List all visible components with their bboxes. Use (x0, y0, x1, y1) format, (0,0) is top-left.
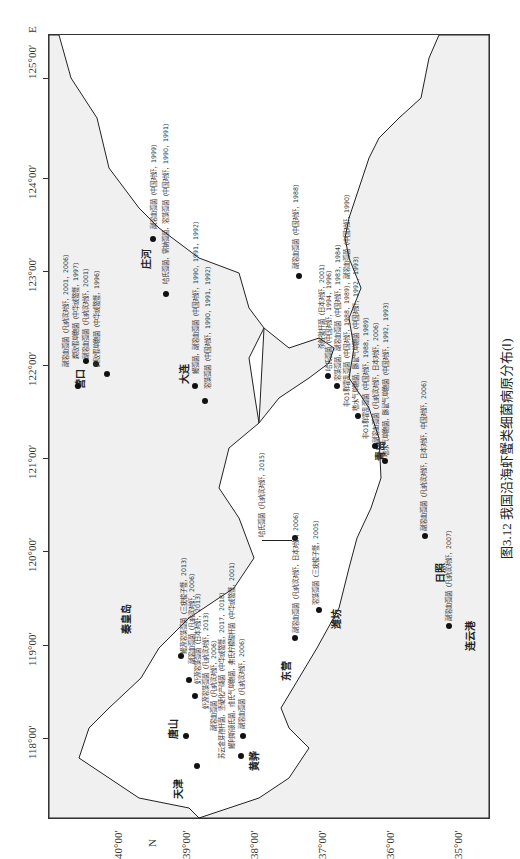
x-tick-label: 123°00′ (26, 258, 38, 292)
site-marker (316, 607, 322, 613)
site-label: 哈氏弧菌，需钠弧菌，溶藻弧菌（中国对虾，1990，1991） (162, 120, 170, 284)
x-tick-mark (43, 365, 48, 366)
site-label: 副溶血弧菌（凡纳滨对虾，2006） (238, 635, 246, 729)
site-label: 哈氏弧菌（中国对虾，1994，1996） (325, 267, 333, 371)
site-label: 副溶血弧菌（中国对虾，1999） (150, 141, 158, 229)
y-tick-label: 37°00′ (316, 830, 328, 859)
x-tick-mark (43, 458, 48, 459)
place-qinhuangdao: 秦皇岛 (118, 604, 133, 634)
x-tick-label: 122°00′ (26, 352, 38, 386)
x-axis-label: E (26, 26, 38, 33)
y-axis-label: N (146, 839, 158, 847)
site-label: 副溶血弧菌（中国对虾，1988） (292, 181, 300, 269)
site-label: 副溶血弧菌（凡纳滨对虾，2007） (445, 527, 453, 621)
site-label: 副溶血弧菌（凡纳滨对虾，2006） (210, 637, 218, 731)
site-marker (325, 373, 331, 379)
x-tick-label: 124°00′ (26, 165, 38, 199)
site-label: 副溶血弧菌（凡纳滨对虾，2001，2006） (62, 251, 70, 367)
place-zhuanghe: 庄河 (138, 249, 153, 269)
x-tick-mark (43, 78, 48, 79)
place-huanghua: 黄骅 (246, 751, 261, 771)
site-marker (150, 236, 156, 242)
place-dalian: 大连 (176, 364, 191, 384)
site-label: 副溶血弧菌（凡纳滨对虾，日本对虾，2006） (292, 509, 300, 633)
site-label: 哈氏弧菌（凡纳滨对虾，2015） (258, 449, 266, 537)
x-tick-mark (43, 178, 48, 179)
site-label: 腐败假单胞菌（中华绒螯蟹，1997） (72, 259, 80, 359)
place-tangshan: 唐山 (165, 719, 180, 739)
site-marker (334, 383, 340, 389)
site-marker (186, 677, 192, 683)
x-tick-label: 120°00′ (26, 538, 38, 572)
site-label: 副溶血弧菌（凡纳滨对虾，日本对虾，2006） (372, 319, 380, 443)
y-tick-label: 38°00′ (248, 830, 260, 859)
site-label: 非O1群霍乱弧菌（中国对虾，1988，1989），副溶血弧菌（中国对虾，1990… (343, 191, 351, 407)
site-marker (202, 398, 208, 404)
x-tick-label: 121°00′ (26, 445, 38, 479)
site-marker (240, 733, 246, 739)
x-tick-label: 125°00′ (26, 45, 38, 79)
site-marker (163, 291, 169, 297)
site-marker (194, 763, 200, 769)
site-label: 鳗弧菌，副溶血弧菌（中国对虾，1990，1991，1992） (192, 218, 200, 374)
x-tick-label: 118°00′ (26, 725, 38, 759)
site-marker (422, 533, 428, 539)
site-marker (192, 383, 198, 389)
y-tick-label: 39°00′ (180, 830, 192, 859)
place-weifang: 潍坊 (328, 609, 343, 629)
site-label: 鳗源溶藻弧菌（三疣梭子蟹，2013） (180, 554, 188, 654)
site-marker (75, 383, 81, 389)
y-tick-label: 36°00′ (384, 830, 396, 859)
site-marker (382, 458, 388, 464)
y-tick-label: 35°00′ (452, 830, 464, 859)
site-label: 副溶血弧菌（凡纳滨对虾，日本对虾，中国对虾，2006） (420, 377, 428, 531)
x-tick-mark (43, 738, 48, 739)
site-label: 嗜水气单胞菌，豚鼠气单胞菌（中国对虾，1992，1993） (382, 299, 390, 457)
place-dongying: 东营 (278, 661, 293, 681)
site-label: 溶藻弧菌，副溶血弧菌（中国对虾，1983，1984） (334, 241, 342, 381)
site-label: 溶藻弧菌（三疣梭子蟹，2005） (312, 517, 320, 605)
y-tick-label: 40°00′ (112, 830, 124, 859)
x-tick-label: 119°00′ (26, 632, 38, 666)
rotated-figure: 118°00′ 119°00′ 120°00′ 121°00′ 122°00′ … (0, 0, 520, 859)
site-label: 鳗利斯顿氏菌，维氏气单胞菌，弗氏柠檬酸杆菌（中华绒螯蟹，2001） (228, 559, 236, 749)
site-marker (355, 413, 361, 419)
site-marker (292, 635, 298, 641)
x-tick-mark (43, 271, 48, 272)
site-label: 副溶血弧菌（凡纳滨对虾，2001） (82, 265, 90, 359)
site-label: 嗜水气单胞菌，豚鼠气单胞菌（中国对虾，1992，1993） (352, 253, 360, 411)
figure-caption: 图3.12 我国沿海虾蟹类细菌病原分布(Ⅰ) (496, 338, 515, 559)
place-lianyungang: 连云港 (462, 621, 477, 651)
site-marker (183, 733, 189, 739)
site-label: 溶藻弧菌（中国对虾，1990，1991，1992） (204, 263, 212, 389)
site-marker (192, 693, 198, 699)
site-label: 非O1群霍乱弧菌（中国对虾，1988，1989） (362, 314, 370, 439)
site-label: 苏云金芽孢杆菌，坚硬化产碱菌（中华绒螯蟹，2017，2018） (218, 589, 226, 759)
site-marker (104, 371, 110, 377)
site-label: 腐败假单胞菌（中华绒螯蟹，1996） (93, 267, 101, 367)
site-marker (446, 623, 452, 629)
site-label: 虾源溶藻弧菌（日本对虾，2013） (194, 590, 202, 684)
site-marker (372, 443, 378, 449)
x-tick-mark (43, 645, 48, 646)
site-marker (238, 753, 244, 759)
site-marker (296, 273, 302, 279)
x-tick-mark (43, 551, 48, 552)
leader-line (262, 540, 292, 541)
site-label: 虾源溶藻弧菌（凡纳滨对虾，2013） (202, 609, 210, 709)
place-tianjin: 天津 (170, 779, 185, 799)
